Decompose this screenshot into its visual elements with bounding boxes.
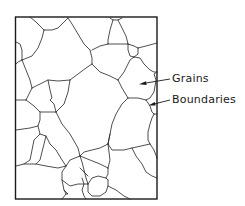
grain-boundaries (16, 17, 157, 199)
boundaries-pointer (149, 100, 171, 106)
grains-pointer (139, 79, 170, 85)
specimen-frame (16, 17, 158, 199)
grains-label: Grains (172, 73, 209, 84)
boundaries-label: Boundaries (172, 94, 236, 105)
